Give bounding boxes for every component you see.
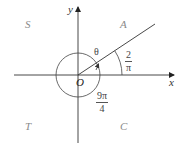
quadrant-label-c: C [120,121,127,132]
theta-label: θ [94,47,99,57]
reference-angle-arc [115,51,122,75]
quadrant-label-s: S [25,19,31,30]
reference-angle-numerator: 2 [125,50,132,61]
terminal-ray [78,24,155,75]
x-axis-label: x [169,77,174,88]
rotation-angle-fraction: 9π 4 [96,91,108,114]
quadrant-label-t: T [25,121,31,132]
rotation-angle-numerator: 9π [96,91,108,102]
quadrant-label-a: A [120,19,127,30]
reference-angle-fraction: 2 π [125,50,132,73]
origin-label: O [76,77,84,88]
y-axis-label: y [68,4,73,15]
reference-angle-denominator: π [126,62,131,73]
cast-diagram: S A T C y x O θ 2 π 9π 4 [0,0,180,149]
rotation-angle-denominator: 4 [100,103,105,114]
